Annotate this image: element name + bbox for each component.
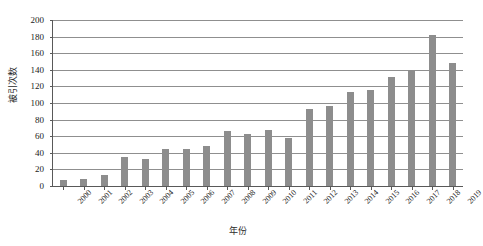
bar — [265, 130, 272, 186]
bar — [347, 92, 354, 186]
y-axis-tick-labels: 020406080100120140160180200 — [14, 20, 44, 186]
y-tick-label: 100 — [14, 99, 44, 108]
x-tick-label: 2008 — [240, 188, 258, 206]
x-axis-title: 年份 — [0, 224, 475, 237]
x-tick-label: 2002 — [117, 188, 135, 206]
plot-area — [52, 20, 463, 187]
y-tick-label: 20 — [14, 165, 44, 174]
y-tick-label: 80 — [14, 115, 44, 124]
x-tick-label: 2010 — [281, 188, 299, 206]
x-tick-label: 2017 — [424, 188, 442, 206]
x-tick-label: 2003 — [137, 188, 155, 206]
x-tick-label: 2014 — [363, 188, 381, 206]
bar — [429, 35, 436, 186]
bar — [80, 179, 87, 186]
bar — [388, 77, 395, 186]
bar — [101, 175, 108, 186]
x-tick-label: 2004 — [158, 188, 176, 206]
y-tick-label: 0 — [14, 182, 44, 191]
x-tick-label: 2007 — [219, 188, 237, 206]
y-tick-mark — [50, 186, 53, 187]
bar — [326, 106, 333, 186]
bar — [285, 138, 292, 186]
y-tick-label: 160 — [14, 49, 44, 58]
bar — [408, 70, 415, 186]
bar — [142, 159, 149, 186]
bar — [306, 109, 313, 186]
y-tick-label: 140 — [14, 65, 44, 74]
y-tick-label: 60 — [14, 132, 44, 141]
bar — [449, 63, 456, 186]
x-tick-label: 2005 — [178, 188, 196, 206]
x-tick-label: 2012 — [322, 188, 340, 206]
x-tick-label: 2011 — [301, 188, 318, 205]
x-tick-label: 2015 — [383, 188, 401, 206]
x-tick-label: 2016 — [404, 188, 422, 206]
bar — [244, 134, 251, 186]
bar — [60, 180, 67, 186]
y-tick-label: 200 — [14, 16, 44, 25]
bar — [224, 131, 231, 186]
x-tick-label: 2018 — [445, 188, 463, 206]
y-tick-label: 40 — [14, 148, 44, 157]
x-tick-label: 2013 — [342, 188, 360, 206]
y-tick-label: 120 — [14, 82, 44, 91]
bar — [203, 146, 210, 186]
bar — [121, 157, 128, 186]
bar — [183, 149, 190, 186]
x-tick-label: 2009 — [260, 188, 278, 206]
x-tick-label: 2006 — [199, 188, 217, 206]
bar — [367, 90, 374, 186]
y-tick-label: 180 — [14, 32, 44, 41]
x-axis-tick-labels: 2000200120022003200420052006200720082009… — [52, 188, 462, 222]
x-tick-label: 2000 — [76, 188, 94, 206]
x-tick-label: 2019 — [465, 188, 483, 206]
bar — [162, 149, 169, 186]
bar-series — [53, 20, 463, 186]
x-tick-label: 2001 — [96, 188, 114, 206]
